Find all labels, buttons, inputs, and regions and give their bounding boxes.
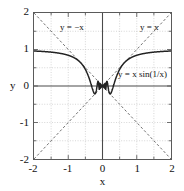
x-tick-label-1: 1 — [127, 163, 147, 174]
y-tick-label-1: 1 — [0, 43, 29, 54]
x-tick-label-2: 2 — [162, 163, 182, 174]
x-tick-label-0: 0 — [93, 163, 113, 174]
annotation-y-equals-x-sin-one-over-x: y = x sin(1/x) — [118, 70, 167, 79]
x-tick-label-minus-2: -2 — [23, 163, 43, 174]
y-tick-label-minus-1: -1 — [0, 117, 29, 128]
y-tick-label-2: 2 — [0, 6, 29, 17]
tick-marks — [34, 13, 171, 159]
x-axis-title: x — [93, 176, 113, 187]
x-tick-label-minus-1: -1 — [58, 163, 78, 174]
annotation-y-equals-minus-x: y = −x — [60, 23, 84, 32]
plot-area: y = −x y = x y = x sin(1/x) — [33, 12, 172, 160]
y-axis-title: y — [10, 80, 16, 91]
annotation-y-equals-x: y = x — [140, 23, 159, 32]
chart-figure: y = −x y = x y = x sin(1/x) 2 1 0 -1 -2 … — [0, 0, 184, 191]
